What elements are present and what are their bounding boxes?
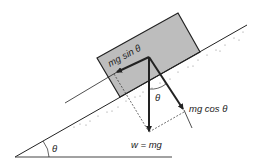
label-weight: w = mg: [131, 139, 163, 150]
label-mg-cos-theta: mg cos θ: [189, 103, 228, 114]
parallel-line-of-action: [65, 72, 117, 103]
label-theta-forces: θ: [155, 92, 161, 103]
incline-force-diagram: mg sin θ mg cos θ w = mg θ θ: [0, 0, 262, 168]
angle-arc-theta-incline: [43, 141, 49, 157]
construction-dashed-right: [149, 112, 184, 132]
label-theta-incline: θ: [52, 143, 58, 154]
